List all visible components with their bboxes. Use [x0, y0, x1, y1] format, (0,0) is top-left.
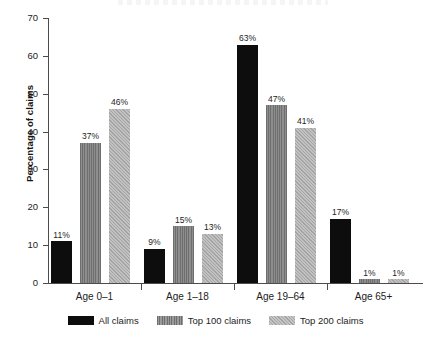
- x-axis-category-label: Age 19–64: [234, 292, 327, 302]
- bar: 17%: [330, 219, 351, 283]
- bar-value-label: 15%: [175, 216, 192, 225]
- legend-swatch: [157, 316, 183, 325]
- y-axis-tick: [43, 283, 48, 284]
- x-axis-line: [48, 283, 423, 284]
- x-axis-tick: [141, 284, 142, 290]
- cropped-title-remnant: [118, 0, 328, 5]
- x-axis-category-label: Age 65+: [327, 292, 420, 302]
- bar-value-label: 11%: [53, 231, 69, 240]
- bar-value-label: 17%: [332, 208, 349, 217]
- y-axis-tick-label: 60: [12, 51, 38, 61]
- bar-value-label: 46%: [111, 98, 128, 107]
- bar: 15%: [173, 226, 194, 283]
- bar: 47%: [266, 105, 287, 283]
- legend-label: All claims: [99, 316, 139, 326]
- plot-area: 11%37%46%9%15%13%63%47%41%17%1%1%: [48, 18, 420, 283]
- bar-value-label: 37%: [82, 132, 99, 141]
- y-axis-tick-label: 0: [12, 278, 38, 288]
- y-axis-tick-label: 30: [12, 164, 38, 174]
- legend-swatch: [269, 316, 295, 325]
- y-axis-tick-label: 70: [12, 13, 38, 23]
- y-axis-tick-label: 50: [12, 89, 38, 99]
- bar: 1%: [359, 279, 380, 283]
- bar-value-label: 1%: [392, 269, 404, 278]
- bar: 11%: [51, 241, 72, 283]
- bar: 41%: [295, 128, 316, 283]
- bar-value-label: 41%: [297, 117, 314, 126]
- bar-value-label: 1%: [363, 269, 375, 278]
- bar: 46%: [109, 109, 130, 283]
- chart-legend: All claimsTop 100 claimsTop 200 claims: [0, 316, 431, 326]
- y-axis-tick-label: 10: [12, 240, 38, 250]
- legend-label: Top 100 claims: [188, 316, 251, 326]
- legend-swatch: [68, 316, 94, 325]
- bar-value-label: 63%: [239, 34, 256, 43]
- x-axis-category-label: Age 1–18: [141, 292, 234, 302]
- bar: 1%: [388, 279, 409, 283]
- legend-item: Top 100 claims: [157, 316, 251, 326]
- y-axis-tick-label: 40: [12, 127, 38, 137]
- bar: 13%: [202, 234, 223, 283]
- bar-value-label: 47%: [268, 95, 285, 104]
- x-axis-category-label: Age 0–1: [48, 292, 141, 302]
- y-axis-tick-label: 20: [12, 202, 38, 212]
- bar-chart: Percentage of claims 010203040506070 11%…: [0, 0, 431, 338]
- legend-label: Top 200 claims: [300, 316, 363, 326]
- bar-value-label: 13%: [204, 223, 221, 232]
- legend-item: All claims: [68, 316, 139, 326]
- x-axis-tick: [327, 284, 328, 290]
- bar: 9%: [144, 249, 165, 283]
- x-axis-tick: [234, 284, 235, 290]
- bar: 37%: [80, 143, 101, 283]
- legend-item: Top 200 claims: [269, 316, 363, 326]
- bar: 63%: [237, 45, 258, 284]
- bar-value-label: 9%: [148, 238, 160, 247]
